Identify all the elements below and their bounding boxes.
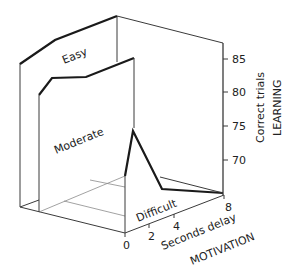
- y-axis: 85 80 75 70 Correct trials LEARNING: [223, 43, 284, 195]
- easy-top-edge: [117, 16, 223, 43]
- x-axis: 0 2 4 8 Seconds delay MOTIVATION: [123, 195, 257, 268]
- y-axis-title-learning: LEARNING: [271, 80, 284, 136]
- series-moderate: Moderate: [39, 58, 134, 212]
- learning-motivation-3d-chart: Easy Moderate Difficult 85 80 75 70 Corr…: [0, 0, 301, 272]
- floor-grid-1: [39, 176, 125, 212]
- x-tick-label-2: 2: [148, 230, 155, 243]
- moderate-label: Moderate: [52, 125, 106, 157]
- floor-grid-2: [90, 180, 125, 187]
- series-easy: Easy: [20, 16, 223, 207]
- easy-label: Easy: [60, 45, 89, 67]
- moderate-line: [39, 58, 134, 95]
- x-tick-label-0: 0: [123, 239, 130, 252]
- y-tick-label-85: 85: [232, 53, 246, 66]
- x-tick-label-4: 4: [173, 220, 180, 233]
- y-tick-label-70: 70: [232, 154, 246, 167]
- series-difficult: Difficult: [125, 131, 223, 225]
- floor-grid-3: [64, 201, 125, 216]
- floor: [20, 176, 224, 233]
- y-axis-label-correct-trials: Correct trials: [254, 72, 267, 143]
- y-tick-label-80: 80: [232, 86, 246, 99]
- floor-back-left: [20, 200, 39, 207]
- y-tick-label-75: 75: [232, 120, 246, 133]
- difficult-line: [125, 131, 223, 193]
